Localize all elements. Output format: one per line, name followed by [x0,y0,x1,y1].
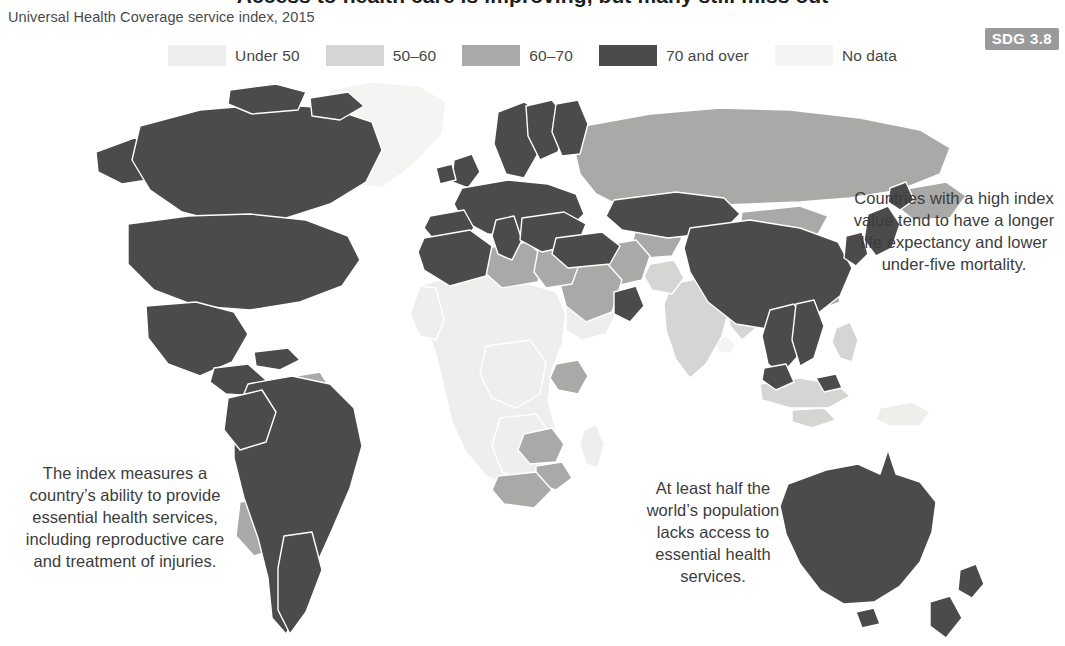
legend-item-50-60: 50–60 [326,45,437,66]
legend-swatch-icon [462,45,520,66]
annotation-high-index: Countries with a high index value tend t… [849,187,1059,275]
legend-swatch-icon [599,45,657,66]
legend-label: 70 and over [666,47,749,65]
legend-item-no-data: No data [775,45,897,66]
map-region [436,164,456,184]
legend-label: Under 50 [235,47,300,65]
legend-item-60-70: 60–70 [462,45,573,66]
legend-label: No data [842,47,897,65]
legend-item-70-and-over: 70 and over [599,45,749,66]
legend-swatch-icon [326,45,384,66]
legend-item-under-50: Under 50 [168,45,300,66]
legend-label: 50–60 [393,47,437,65]
map-legend: Under 50 50–60 60–70 70 and over No data [0,45,1065,66]
chart-subtitle: Universal Health Coverage service index,… [8,9,315,25]
legend-label: 60–70 [529,47,573,65]
annotation-population-access: At least half the world’s population lac… [638,477,788,588]
legend-swatch-icon [775,45,833,66]
map-region [552,232,620,268]
legend-swatch-icon [168,45,226,66]
page-title: Access to health care is improving, but … [0,0,1065,8]
map-region [228,84,306,114]
annotation-index-definition: The index measures a country’s ability t… [14,462,236,573]
